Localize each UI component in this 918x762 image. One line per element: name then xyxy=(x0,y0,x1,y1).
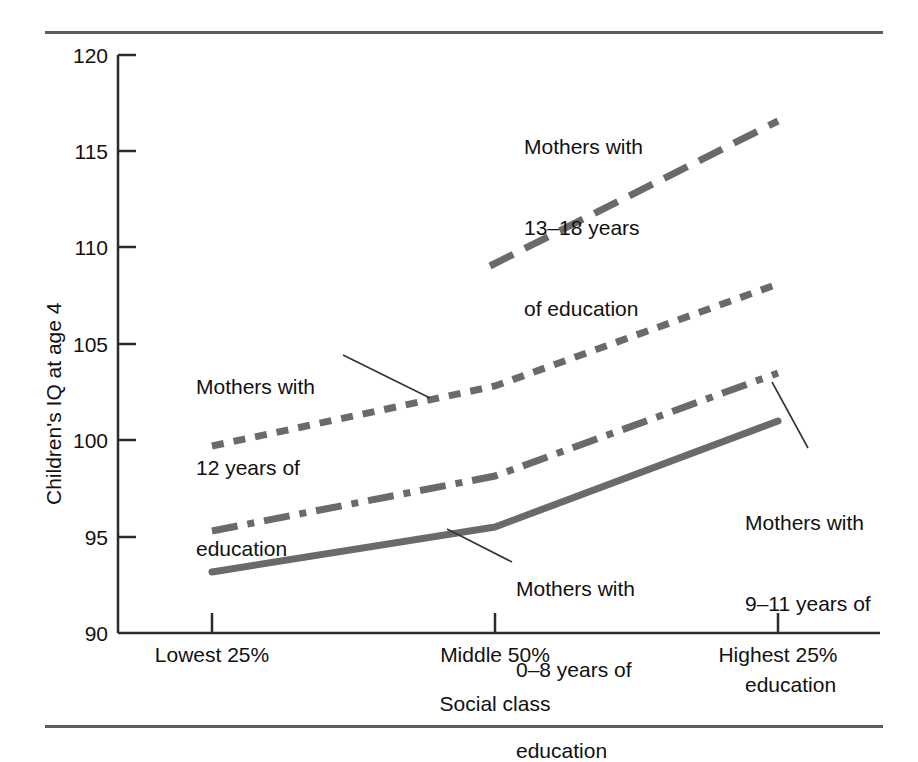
x-tick-label-lowest: Lowest 25% xyxy=(112,643,312,667)
annotation-9-11-line3: education xyxy=(745,671,871,698)
annotation-9-11-years: Mothers with 9–11 years of education xyxy=(745,455,871,752)
annotation-13-18-line1: Mothers with xyxy=(524,133,643,160)
annotation-0-8-line2: 0–8 years of xyxy=(516,656,635,683)
leader-line-0-8-years xyxy=(447,529,512,562)
annotation-9-11-line1: Mothers with xyxy=(745,509,871,536)
leader-line-12-years xyxy=(343,355,430,398)
x-axis-ticks xyxy=(212,613,778,633)
y-axis-label: Children's IQ at age 4 xyxy=(42,303,66,505)
annotation-0-8-years: Mothers with 0–8 years of education xyxy=(516,521,635,762)
annotation-13-18-line2: 13–18 years xyxy=(524,214,643,241)
y-tick-label-115: 115 xyxy=(48,140,108,164)
annotation-0-8-line1: Mothers with xyxy=(516,575,635,602)
y-tick-label-120: 120 xyxy=(48,44,108,68)
y-tick-label-90: 90 xyxy=(48,622,108,646)
y-tick-label-110: 110 xyxy=(48,236,108,260)
leader-line-9-11-years xyxy=(772,382,808,448)
annotation-12-line3: education xyxy=(196,535,315,562)
annotation-0-8-line3: education xyxy=(516,737,635,762)
y-axis-ticks xyxy=(118,55,136,537)
annotation-9-11-line2: 9–11 years of xyxy=(745,590,871,617)
annotation-12-line2: 12 years of xyxy=(196,454,315,481)
annotation-13-18-years: Mothers with 13–18 years of education xyxy=(524,79,643,376)
annotation-12-years: Mothers with 12 years of education xyxy=(196,319,315,616)
annotation-13-18-line3: of education xyxy=(524,295,643,322)
annotation-12-line1: Mothers with xyxy=(196,373,315,400)
y-tick-label-95: 95 xyxy=(48,526,108,550)
